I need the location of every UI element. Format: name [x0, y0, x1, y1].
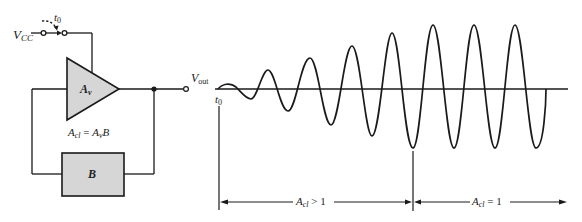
waveform-start-label: t0	[215, 94, 222, 107]
gain-equation: Acl = AvB	[68, 127, 109, 140]
switch-time-label: t0	[54, 12, 61, 25]
region1-label-tail: > 1	[309, 195, 326, 207]
supply-label-sub: CC	[21, 33, 33, 43]
output-waveform	[218, 25, 546, 148]
amplifier-triangle	[67, 58, 119, 120]
region-markers	[219, 106, 562, 211]
region2-label-tail: = 1	[485, 195, 502, 207]
region-gain-unity-label: Acl = 1	[472, 196, 502, 209]
amplifier-label: Av	[80, 83, 92, 97]
gain-eq-rhs-tail: B	[103, 126, 110, 138]
gain-eq-lhs: A	[68, 126, 75, 138]
switch-time-sub: 0	[57, 16, 61, 25]
output-label-sub: out	[198, 77, 208, 86]
feedback-block-label: B	[88, 168, 96, 180]
supply-switch	[31, 21, 92, 73]
supply-label: VCC	[13, 28, 33, 43]
amplifier-label-sub: v	[88, 88, 92, 97]
region1-label-main: A	[296, 195, 303, 207]
gain-eq-rhs: A	[92, 126, 99, 138]
gain-eq-equals: =	[81, 126, 93, 138]
junction-dot	[151, 86, 156, 91]
start-label-sub: 0	[218, 98, 222, 107]
feedback-label-main: B	[88, 167, 96, 181]
output-label: Vout	[191, 72, 209, 86]
region-gain-greater-label: Acl > 1	[296, 196, 326, 209]
output-terminal	[184, 87, 189, 92]
diagram-canvas	[0, 0, 582, 222]
region2-label-main: A	[472, 195, 479, 207]
amplifier-label-main: A	[80, 82, 88, 96]
supply-label-main: V	[13, 27, 21, 42]
